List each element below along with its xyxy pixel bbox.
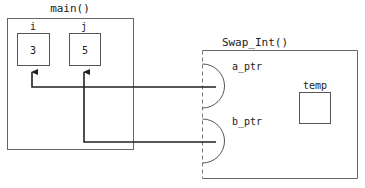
var-i-value: 3 [30,45,36,56]
param-b-ptr-label: b_ptr [232,116,262,128]
pointer-b-to-j [84,72,216,142]
pointer-a-to-i [32,72,216,87]
main-frame-title: main() [50,2,90,15]
var-j-value: 5 [82,45,88,56]
var-j-label: j [81,21,87,32]
var-i: i 3 [18,21,50,66]
main-frame: main() i 3 j 5 [8,2,134,150]
var-i-label: i [30,21,36,32]
memory-diagram: main() i 3 j 5 Swap_Int() a_ptr b_ptr te… [0,0,365,188]
local-temp: temp [300,80,331,124]
swap-frame-title: Swap_Int() [222,36,288,49]
param-a-ptr: a_ptr [203,61,263,108]
param-b-ptr: b_ptr [203,116,263,163]
swap-frame: Swap_Int() a_ptr b_ptr temp [203,36,358,179]
var-j: j 5 [70,21,101,66]
param-a-ptr-label: a_ptr [232,61,262,73]
local-temp-label: temp [303,80,327,91]
